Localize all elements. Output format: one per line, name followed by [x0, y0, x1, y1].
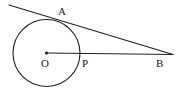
label-a: A	[58, 6, 66, 17]
tangent-line-AB	[9, 5, 173, 55]
center-point-dot	[45, 51, 48, 54]
geometry-canvas	[0, 0, 187, 97]
label-b: B	[156, 58, 163, 69]
label-p: P	[82, 58, 88, 69]
geometry-figure: A O P B	[0, 0, 187, 97]
label-o: O	[41, 58, 49, 69]
line-OB	[47, 53, 174, 55]
